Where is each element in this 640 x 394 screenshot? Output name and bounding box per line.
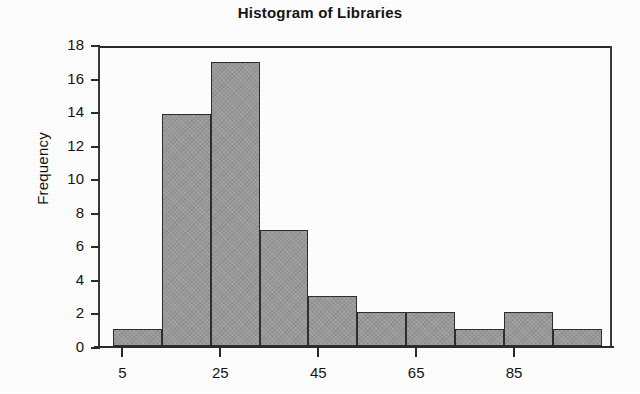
y-axis-tick-label: 16 (44, 70, 84, 87)
x-axis-line (94, 346, 614, 348)
plot-frame-top (98, 46, 612, 48)
y-axis-tick-label: 14 (44, 103, 84, 120)
y-axis-tick-label: 12 (44, 137, 84, 154)
x-axis-tick (513, 348, 515, 357)
y-axis-tick-label: 2 (44, 304, 84, 321)
histogram-bar (308, 296, 357, 346)
y-axis-tick (91, 79, 100, 81)
plot-area (98, 46, 612, 348)
y-axis-tick-label: 18 (44, 36, 84, 53)
histogram-bar (406, 312, 455, 346)
x-axis-tick-label: 25 (195, 364, 245, 381)
x-axis-tick-label: 45 (293, 364, 343, 381)
plot-frame-right (610, 46, 612, 348)
histogram-bar (455, 329, 504, 346)
histogram-bar (162, 114, 211, 346)
y-axis-tick (91, 246, 100, 248)
histogram-bar (113, 329, 162, 346)
y-axis-tick (91, 280, 100, 282)
y-axis-tick (91, 213, 100, 215)
y-axis-tick (91, 179, 100, 181)
x-axis-tick (415, 348, 417, 357)
histogram-bar (211, 62, 260, 346)
x-axis-tick (317, 348, 319, 357)
histogram-bar (504, 312, 553, 346)
y-axis-tick (91, 313, 100, 315)
y-axis-tick-label: 6 (44, 237, 84, 254)
histogram-figure: Histogram of Libraries Frequency 0246810… (0, 0, 640, 394)
y-axis-tick-label: 10 (44, 170, 84, 187)
y-axis-tick (91, 112, 100, 114)
plot-frame-left (98, 46, 100, 348)
x-axis-tick-label: 5 (97, 364, 147, 381)
histogram-bar (553, 329, 602, 346)
x-axis-tick-label: 85 (489, 364, 539, 381)
y-axis-tick-label: 0 (44, 338, 84, 355)
y-axis-tick-label: 4 (44, 271, 84, 288)
histogram-bar (260, 230, 309, 346)
y-axis-tick (91, 45, 100, 47)
y-axis-tick (91, 347, 100, 349)
x-axis-tick-label: 65 (391, 364, 441, 381)
histogram-bar (357, 312, 406, 346)
x-axis-tick (121, 348, 123, 357)
y-axis-tick-label: 8 (44, 204, 84, 221)
y-axis-tick (91, 146, 100, 148)
x-axis-tick (219, 348, 221, 357)
chart-title: Histogram of Libraries (0, 4, 640, 21)
